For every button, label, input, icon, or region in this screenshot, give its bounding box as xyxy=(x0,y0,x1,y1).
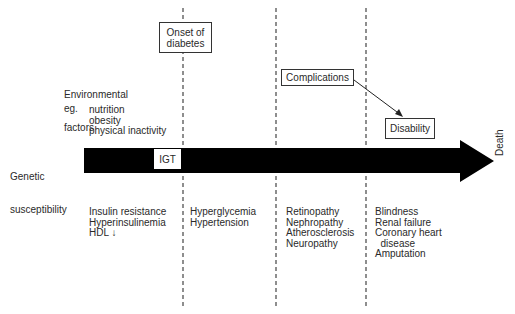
stage-item: Atherosclerosis xyxy=(286,228,354,239)
genetic-susceptibility-label: Genetic susceptibility xyxy=(10,149,67,226)
onset-of-diabetes-box: Onset of diabetes xyxy=(159,22,212,53)
connector-arrowhead-icon xyxy=(395,109,403,117)
stage-item: Hypertension xyxy=(190,218,256,229)
environmental-factors-list: nutrition obesity physical inactivity xyxy=(89,105,166,137)
complications-to-disability-arrow xyxy=(354,80,401,115)
disability-box: Disability xyxy=(385,118,435,139)
igt-box: IGT xyxy=(154,149,181,169)
eg-label: eg. xyxy=(64,103,78,114)
onset-line-1: Onset of xyxy=(167,27,205,38)
stage-item: Amputation xyxy=(375,249,442,260)
death-label: Death xyxy=(494,129,505,156)
stage-item: Neuropathy xyxy=(286,239,354,250)
stage-item: Coronary heart xyxy=(375,228,442,239)
stage-disability-list: Blindness Renal failure Coronary heart d… xyxy=(375,207,442,260)
diagram-graphics xyxy=(0,0,515,314)
down-arrow-icon: ↓ xyxy=(111,227,116,238)
timeline-arrow xyxy=(84,140,494,182)
stage-item: Hyperglycemia xyxy=(190,207,256,218)
stage-pre-diabetes-list: Insulin resistance Hyperinsulinemia HDL … xyxy=(89,207,166,239)
stage-item: Insulin resistance xyxy=(89,207,166,218)
stage-item: HDL ↓ xyxy=(89,228,166,239)
stage-diabetes-list: Hyperglycemia Hypertension xyxy=(190,207,256,228)
stage-item: Retinopathy xyxy=(286,207,354,218)
stage-complications-list: Retinopathy Nephropathy Atherosclerosis … xyxy=(286,207,354,249)
complications-box: Complications xyxy=(281,69,354,86)
env-item: nutrition xyxy=(89,105,166,116)
stage-item: Blindness xyxy=(375,207,442,218)
onset-line-2: diabetes xyxy=(167,38,205,49)
env-item: physical inactivity xyxy=(89,126,166,137)
